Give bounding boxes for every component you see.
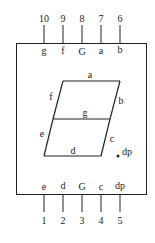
- pin-number-9: 9: [61, 13, 66, 24]
- segment-f: [53, 81, 63, 119]
- segment-label-g: g: [83, 107, 88, 118]
- pin-label-9: f: [61, 45, 65, 56]
- pin-label-7: a: [99, 45, 104, 56]
- pin-number-5: 5: [118, 215, 123, 226]
- segment-e: [44, 119, 53, 156]
- pin-label-4: c: [99, 181, 104, 192]
- segment-label-dp: dp: [122, 146, 132, 157]
- pin-number-2: 2: [61, 215, 66, 226]
- pin-label-3: G: [78, 181, 85, 192]
- segment-label-c: c: [110, 133, 115, 144]
- pin-number-8: 8: [80, 13, 85, 24]
- segment-figure: a b c d e f g dp: [40, 69, 132, 158]
- segment-label-a: a: [88, 69, 93, 80]
- seven-segment-pinout-diagram: 10 9 8 7 6 g f G a b a b c d e f: [0, 0, 155, 243]
- bottom-pins: e d G c dp 1 2 3 4 5: [42, 180, 126, 226]
- pin-number-6: 6: [118, 13, 123, 24]
- pin-label-6: b: [118, 44, 123, 55]
- pin-label-10: g: [42, 45, 47, 56]
- segment-label-e: e: [40, 128, 45, 139]
- segment-c: [101, 119, 110, 156]
- top-pins: 10 9 8 7 6 g f G a b: [39, 13, 123, 57]
- segment-label-f: f: [49, 91, 53, 102]
- pin-number-1: 1: [42, 215, 47, 226]
- pin-number-4: 4: [99, 215, 104, 226]
- pin-number-10: 10: [39, 13, 49, 24]
- pin-label-1: e: [42, 181, 47, 192]
- pin-number-7: 7: [99, 13, 104, 24]
- pin-label-5: dp: [115, 180, 125, 191]
- pin-label-8: G: [78, 46, 85, 57]
- pin-label-2: d: [61, 180, 66, 191]
- segment-label-b: b: [119, 95, 124, 106]
- segment-label-d: d: [71, 145, 76, 156]
- segment-dp-dot: [117, 155, 120, 158]
- pin-number-3: 3: [80, 215, 85, 226]
